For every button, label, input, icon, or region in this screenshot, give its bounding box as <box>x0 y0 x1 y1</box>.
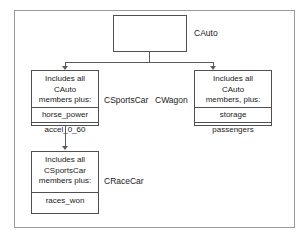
class-header-cracecar: Includes all CSportsCar members plus: <box>32 152 98 192</box>
class-box-cracecar[interactable]: Includes all CSportsCar members plus: ra… <box>31 151 99 214</box>
class-header-csportscar: Includes all CAuto members plus: <box>32 71 98 107</box>
class-member-races-won: races_won <box>32 192 98 207</box>
class-member-accel-0-60: accel_0_60 <box>32 122 98 137</box>
class-box-csportscar[interactable]: Includes all CAuto members plus: horse_p… <box>31 70 99 126</box>
class-member-storage: storage <box>195 107 271 122</box>
class-label-cracecar: CRaceCar <box>104 176 144 186</box>
class-label-cauto: CAuto <box>194 28 218 38</box>
class-header-cauto <box>114 16 186 20</box>
class-member-horse-power: horse_power <box>32 107 98 122</box>
class-member-passengers: passengers <box>195 122 271 137</box>
class-label-cwagon: CWagon <box>155 95 188 105</box>
connector-cauto-bus <box>65 62 214 63</box>
class-header-cwagon: Includes all CAuto members, plus: <box>195 71 271 107</box>
class-label-csportscar: CSportsCar <box>104 95 148 105</box>
diagram-canvas: CAuto Includes all CAuto members plus: h… <box>0 0 307 237</box>
class-box-cauto[interactable] <box>113 15 187 52</box>
arrowhead-cracecar <box>62 146 68 150</box>
class-box-cwagon[interactable]: Includes all CAuto members, plus: storag… <box>194 70 272 126</box>
